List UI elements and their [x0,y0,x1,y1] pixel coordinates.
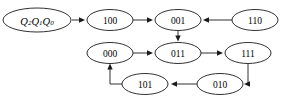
state-node-111[interactable]: 111 [225,43,271,64]
state-node-000[interactable]: 000 [87,43,133,64]
state-node-001-label: 001 [171,16,186,26]
arrow-head-icon [147,17,153,23]
edge-100-to-001 [133,17,153,23]
state-node-100-label: 100 [103,16,118,26]
arrow-head-icon [79,17,85,23]
arrow-head-icon [107,64,112,70]
state-transition-diagram: Q2Q1Q0 100 001 110 000 011 [0,0,282,100]
arrow-head-icon [244,81,250,87]
edge-001-to-011 [175,31,180,42]
edge-011-to-111 [201,50,223,56]
edge-000-to-011 [133,50,153,56]
edge-legend-to-100 [72,17,85,23]
edge-010-to-101 [171,81,197,87]
arrow-head-icon [171,81,177,87]
state-node-010-label: 010 [213,80,228,90]
legend-label: Q2Q1Q0 [20,15,54,27]
state-node-110[interactable]: 110 [232,10,278,31]
state-node-010[interactable]: 010 [197,74,243,95]
arrow-head-icon [203,17,209,23]
edge-111-to-010 [244,64,250,87]
state-node-000-label: 000 [103,49,118,59]
edge-101-to-000 [107,64,122,85]
state-node-111-label: 111 [241,49,255,59]
state-node-101-label: 101 [138,80,153,90]
state-node-011[interactable]: 011 [155,43,201,64]
state-node-011-label: 011 [171,49,185,59]
state-node-001[interactable]: 001 [155,10,201,31]
state-node-101[interactable]: 101 [122,74,168,95]
state-node-100[interactable]: 100 [87,10,133,31]
arrow-head-icon [175,36,180,42]
arrow-head-icon [217,50,223,56]
legend-q0-sub: 0 [50,19,54,27]
edge-110-to-001 [203,17,232,23]
diagram-canvas: Q2Q1Q0 100 001 110 000 011 [0,0,282,100]
arrow-head-icon [147,50,153,56]
state-encoding-legend: Q2Q1Q0 [3,8,71,32]
state-node-110-label: 110 [248,16,262,26]
